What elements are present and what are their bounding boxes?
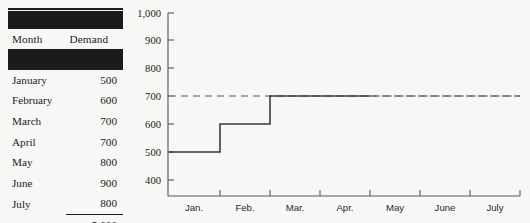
table-row: May 800 [8, 152, 123, 173]
x-tick-label: Feb. [235, 202, 254, 213]
cell-demand: 800 [66, 193, 123, 214]
cell-month: June [8, 173, 66, 194]
column-header-demand: Demand [66, 29, 123, 50]
x-tick-label: May [386, 202, 404, 213]
cell-month: July [8, 193, 66, 214]
y-tick-label: 400 [145, 175, 161, 186]
x-axis-ticks [220, 190, 520, 196]
table-header-row: Month Demand [8, 29, 123, 50]
table-header-rule [8, 49, 123, 70]
cell-month: February [8, 90, 66, 111]
y-tick-label: 700 [145, 91, 161, 102]
x-tick-label: Apr. [336, 202, 353, 213]
cell-month: January [8, 70, 66, 91]
y-tick-label: 800 [145, 63, 161, 74]
x-tick-label: June [435, 202, 456, 213]
cell-month: May [8, 152, 66, 173]
table-top-thick-rule [8, 8, 123, 29]
table-row: March 700 [8, 111, 123, 132]
chart-axes [168, 13, 520, 196]
y-tick-label: 1,000 [137, 8, 161, 19]
table-total-row: 5,000 [8, 214, 123, 223]
y-tick-label: 600 [145, 119, 161, 130]
x-tick-label: July [486, 202, 503, 213]
cell-month: March [8, 111, 66, 132]
y-tick-label: 900 [145, 35, 161, 46]
chart-svg: 1,000 900 800 700 600 500 400 [130, 0, 530, 223]
table-row: February 600 [8, 90, 123, 111]
x-tick-label: Jan. [185, 202, 203, 213]
column-header-month: Month [8, 29, 66, 50]
step-line-solid [169, 96, 370, 152]
x-axis-tick-labels: Jan. Feb. Mar. Apr. May June July [185, 202, 504, 213]
cell-demand: 800 [66, 152, 123, 173]
y-axis-tick-labels: 1,000 900 800 700 600 500 400 [137, 8, 161, 186]
demand-table-grid: Month Demand January 500 February 600 Ma… [8, 8, 123, 223]
table-row: July 800 [8, 193, 123, 214]
cell-demand: 700 [66, 132, 123, 153]
y-tick-label: 500 [145, 147, 161, 158]
cell-demand: 900 [66, 173, 123, 194]
monthly-demand-table: Month Demand January 500 February 600 Ma… [8, 8, 123, 223]
table-header-rule-row [8, 49, 123, 70]
cell-demand: 700 [66, 111, 123, 132]
cell-demand: 600 [66, 90, 123, 111]
cell-month: April [8, 132, 66, 153]
total-label [8, 214, 66, 223]
table-top-rule-row [8, 8, 123, 29]
table-row: April 700 [8, 132, 123, 153]
cell-demand: 500 [66, 70, 123, 91]
total-value: 5,000 [66, 214, 123, 223]
table-row: June 900 [8, 173, 123, 194]
table-row: January 500 [8, 70, 123, 91]
x-tick-label: Mar. [286, 202, 305, 213]
cumulative-demand-step-chart: 1,000 900 800 700 600 500 400 [130, 0, 530, 223]
